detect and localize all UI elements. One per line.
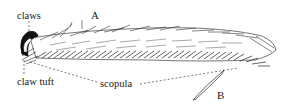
claw-tuft-label: claw tuft <box>17 77 54 88</box>
claws-label: claws <box>17 11 41 22</box>
panel-a-label: A <box>91 10 99 21</box>
scopula-label: scopula <box>100 79 132 90</box>
mid-setae <box>50 39 242 50</box>
spider-leg-diagram <box>0 0 285 104</box>
panel-b-label: B <box>217 90 224 101</box>
scopula-hairs <box>36 51 270 66</box>
